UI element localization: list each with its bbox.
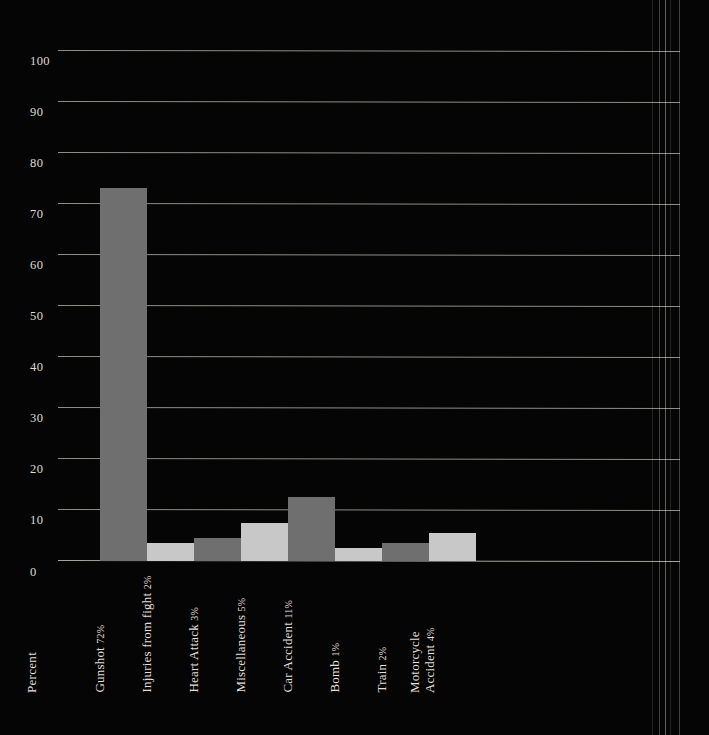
x-label-heart-attack: Heart Attack 3% bbox=[187, 607, 202, 693]
scan-line-1 bbox=[652, 0, 653, 735]
x-label-train: Train 2% bbox=[375, 647, 390, 693]
x-label-gunshot: Gunshot 72% bbox=[93, 625, 108, 693]
x-label-heart-attack-name: Heart Attack bbox=[186, 625, 201, 693]
x-label-injuries-from-fight-name: Injuries from fight bbox=[139, 593, 154, 693]
bar-series bbox=[100, 50, 680, 561]
x-label-motorcycle-accident: Motorcycle Accident 4% bbox=[408, 627, 437, 693]
bar-gunshot bbox=[100, 188, 147, 561]
scan-line-5 bbox=[679, 0, 680, 735]
x-label-motorcycle-accident-line2: Accident bbox=[421, 644, 436, 693]
bar-injuries-from-fight bbox=[147, 543, 194, 561]
x-label-motorcycle-accident-line2-wrap: Accident 4% bbox=[422, 627, 437, 693]
scan-line-2 bbox=[659, 0, 660, 735]
y-tick-40: 40 bbox=[30, 360, 70, 375]
scan-line-4 bbox=[670, 0, 671, 735]
x-label-car-accident-name: Car Accident bbox=[280, 622, 295, 693]
x-label-car-accident: Car Accident 11% bbox=[281, 600, 296, 693]
x-axis-labels: Percent Gunshot 72% Injuries from fight … bbox=[0, 566, 709, 735]
plot-area bbox=[58, 50, 680, 561]
y-tick-50: 50 bbox=[30, 309, 70, 324]
x-label-injuries-from-fight: Injuries from fight 2% bbox=[140, 576, 155, 693]
bar-chart: 100 90 80 70 60 50 40 30 20 10 0 Percent… bbox=[0, 0, 709, 735]
scan-line-3 bbox=[665, 0, 666, 735]
bar-miscellaneous bbox=[241, 523, 288, 561]
y-tick-90: 90 bbox=[30, 105, 70, 120]
x-label-train-name: Train bbox=[374, 664, 389, 693]
x-label-miscellaneous-name: Miscellaneous bbox=[233, 615, 248, 693]
y-axis-title: Percent bbox=[24, 652, 40, 693]
bar-heart-attack bbox=[194, 538, 241, 561]
y-tick-10: 10 bbox=[30, 513, 70, 528]
x-label-bomb: Bomb 1% bbox=[328, 643, 343, 693]
x-label-injuries-from-fight-pct: 2% bbox=[142, 576, 153, 590]
x-label-bomb-name: Bomb bbox=[327, 660, 342, 693]
x-label-motorcycle-accident-pct: 4% bbox=[424, 627, 435, 641]
bar-car-accident bbox=[288, 497, 335, 561]
y-tick-30: 30 bbox=[30, 411, 70, 426]
x-label-gunshot-pct: 72% bbox=[95, 625, 106, 644]
x-label-miscellaneous: Miscellaneous 5% bbox=[234, 598, 249, 693]
y-tick-80: 80 bbox=[30, 156, 70, 171]
y-tick-20: 20 bbox=[30, 462, 70, 477]
x-label-car-accident-pct: 11% bbox=[283, 600, 294, 619]
x-label-train-pct: 2% bbox=[377, 647, 388, 661]
bar-motorcycle-accident bbox=[429, 533, 476, 561]
x-label-heart-attack-pct: 3% bbox=[189, 607, 200, 621]
y-tick-60: 60 bbox=[30, 258, 70, 273]
bar-train bbox=[382, 543, 429, 561]
x-label-bomb-pct: 1% bbox=[330, 643, 341, 657]
x-label-gunshot-name: Gunshot bbox=[92, 648, 107, 693]
y-tick-70: 70 bbox=[30, 207, 70, 222]
x-label-miscellaneous-pct: 5% bbox=[236, 598, 247, 612]
bar-bomb bbox=[335, 548, 382, 561]
x-label-motorcycle-accident-line1: Motorcycle bbox=[407, 631, 422, 693]
y-tick-100: 100 bbox=[30, 54, 70, 69]
